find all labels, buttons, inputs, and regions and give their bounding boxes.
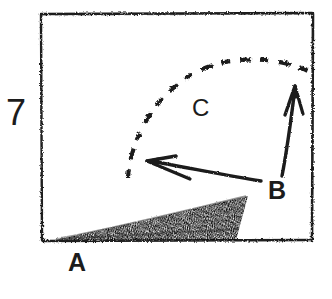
label-b: B <box>268 178 286 203</box>
figure-drawing-canvas <box>0 0 332 299</box>
figure-number-label: 7 <box>6 95 26 131</box>
up-pointing-arrow-b <box>282 85 303 176</box>
hatched-wedge-a <box>40 185 262 246</box>
frame-border <box>41 13 313 241</box>
label-c: C <box>192 96 209 120</box>
label-a: A <box>68 250 86 275</box>
left-pointing-arrow <box>147 156 261 181</box>
figure-container: 7 A B C <box>0 0 332 299</box>
frame-border-texture <box>41 14 313 241</box>
